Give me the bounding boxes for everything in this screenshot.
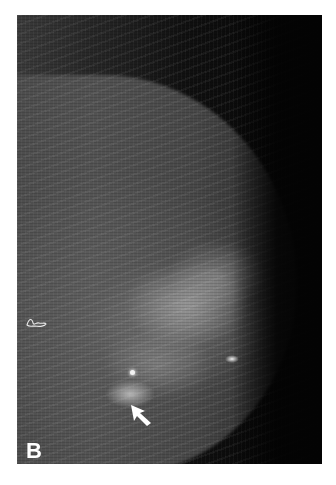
top-shade <box>17 15 322 145</box>
mammogram-image: B <box>17 15 322 464</box>
panel-label: B <box>26 440 42 462</box>
bright-spot <box>225 355 239 363</box>
arrow-pointer-icon <box>129 403 153 427</box>
scar-marker-icon <box>26 316 48 328</box>
calcification-dot <box>130 370 135 375</box>
